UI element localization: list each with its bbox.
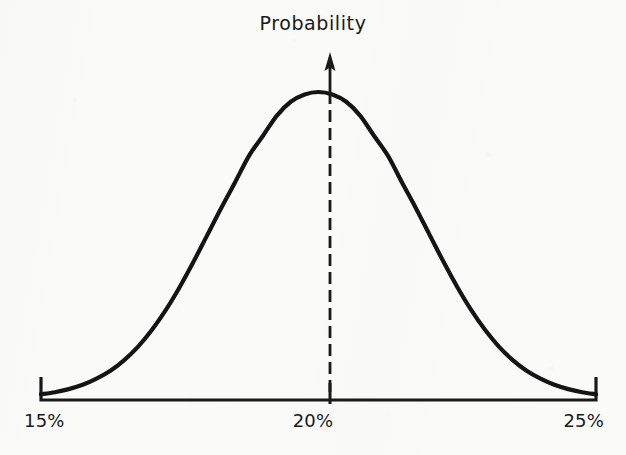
probability-figure: Probability 15% 20% 25% (0, 0, 626, 455)
x-axis-tick-label-right: 25% (0, 412, 626, 430)
bell-curve-plot (0, 0, 626, 455)
normal-distribution-curve (41, 92, 596, 394)
x-axis-line (41, 377, 596, 400)
page-title: Probability (0, 14, 626, 33)
